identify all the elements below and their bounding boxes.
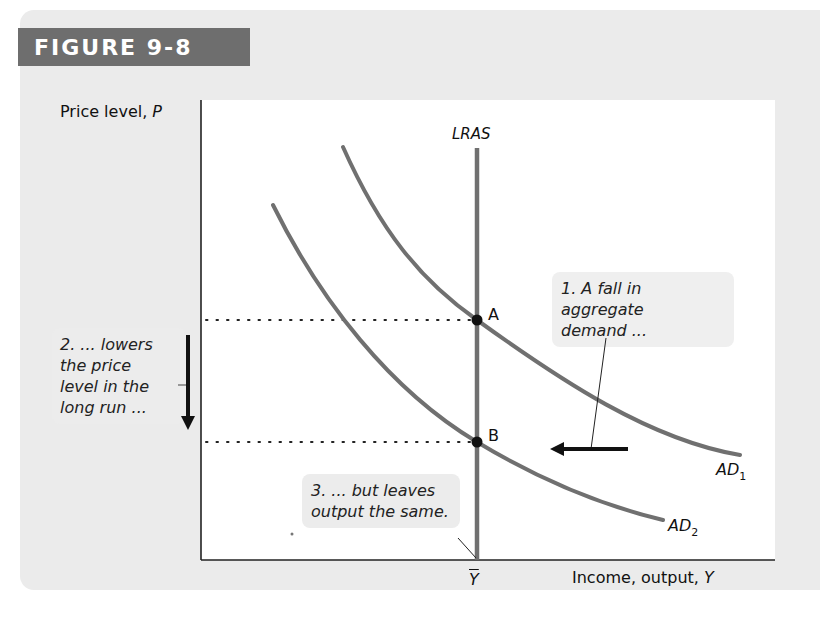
- stray-mark: [291, 533, 294, 536]
- callout-1-pointer: [591, 338, 606, 449]
- ad2-curve: [273, 205, 663, 520]
- ad2-label-text: AD: [668, 516, 691, 535]
- point-a-label: A: [488, 305, 499, 324]
- x-tick-ybar: Y: [469, 570, 479, 589]
- lras-label: LRAS: [452, 125, 491, 143]
- point-b-marker: [472, 437, 483, 448]
- ad1-curve: [343, 147, 740, 455]
- callout-3-pointer: [458, 538, 476, 558]
- price-arrow-down-icon: [181, 416, 195, 430]
- shift-arrow-left-icon: [550, 442, 564, 456]
- ad1-label-text: AD: [716, 460, 739, 479]
- point-b-label: B: [488, 426, 499, 445]
- ad1-label: AD1: [716, 460, 746, 483]
- ad2-subscript: 2: [691, 526, 698, 539]
- point-a-marker: [472, 315, 483, 326]
- ad1-subscript: 1: [739, 470, 746, 483]
- ad2-label: AD2: [668, 516, 698, 539]
